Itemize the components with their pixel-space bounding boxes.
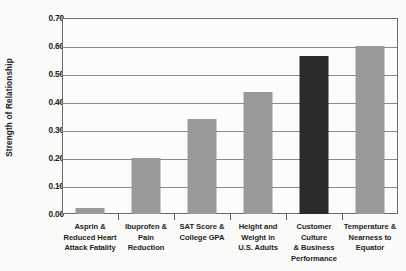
x-axis-category-label-line: Reduction	[119, 243, 173, 254]
x-axis-category-label: SAT Score &College GPA	[174, 222, 230, 266]
x-axis-category-label-line: SAT Score &	[175, 222, 229, 233]
bar-highlighted	[300, 56, 329, 214]
x-axis-category-label-line: Weight in	[231, 233, 285, 244]
x-axis-category-label-line: Asprin &	[63, 222, 117, 233]
x-axis-category-label: Temperature &Nearness toEquator	[342, 222, 398, 266]
x-axis-category-label: Asprin &Reduced HeartAttack Fatality	[62, 222, 118, 266]
y-axis-title-text: Strength of Relationship	[5, 58, 14, 157]
bar	[132, 158, 161, 214]
x-axis-category-label-line: Attack Fatality	[63, 243, 117, 254]
x-axis-tick-marks	[62, 214, 398, 220]
y-axis-title: Strength of Relationship	[0, 0, 18, 214]
x-axis-category-label: Customer Culture& BusinessPerformance	[286, 222, 342, 266]
x-axis-category-label-line: Equator	[343, 243, 397, 254]
x-axis-category-label-line: Temperature &	[343, 222, 397, 233]
x-axis-category-label: Ibuprofen & PainReduction	[118, 222, 174, 266]
x-axis-category-label-line: Ibuprofen & Pain	[119, 222, 173, 243]
bar-slot	[118, 18, 174, 214]
bar-slot	[230, 18, 286, 214]
x-axis-category-label-line: Height and	[231, 222, 285, 233]
bar	[356, 46, 385, 214]
x-axis-category-label: Height andWeight inU.S. Adults	[230, 222, 286, 266]
bar	[244, 92, 273, 214]
x-axis-tick-mark	[342, 214, 343, 220]
x-axis-tick-mark	[230, 214, 231, 220]
x-axis-category-label-line: U.S. Adults	[231, 243, 285, 254]
bars-layer	[62, 18, 398, 214]
x-axis-category-label-line: Nearness to	[343, 233, 397, 244]
bar-slot	[174, 18, 230, 214]
x-axis-category-labels: Asprin &Reduced HeartAttack FatalityIbup…	[62, 222, 398, 266]
x-axis-tick-mark	[286, 214, 287, 220]
bar-slot	[286, 18, 342, 214]
x-axis-category-label-line: Customer Culture	[287, 222, 341, 243]
x-axis-tick-mark	[118, 214, 119, 220]
x-axis-category-label-line: Reduced Heart	[63, 233, 117, 244]
bar	[188, 119, 217, 214]
x-axis-category-label-line: Performance	[287, 254, 341, 265]
bar-chart-figure: Strength of Relationship 0.700.600.500.4…	[0, 0, 406, 271]
x-axis-category-label-line: College GPA	[175, 233, 229, 244]
bar-slot	[342, 18, 398, 214]
x-axis-tick-mark	[174, 214, 175, 220]
x-axis-category-label-line: & Business	[287, 243, 341, 254]
bar-slot	[62, 18, 118, 214]
